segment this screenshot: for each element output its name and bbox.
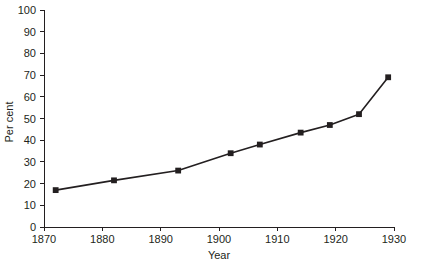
data-point-marker: [53, 187, 59, 193]
y-tick-label: 50: [24, 113, 36, 125]
x-tick-label: 1920: [323, 233, 347, 245]
data-point-marker: [298, 130, 304, 136]
data-point-marker: [111, 177, 117, 183]
line-chart: 0102030405060708090100 18701880189019001…: [0, 0, 430, 263]
data-series-line: [56, 77, 389, 190]
x-tick-label: 1890: [148, 233, 172, 245]
y-tick-label: 60: [24, 91, 36, 103]
data-point-marker: [175, 168, 181, 174]
y-tick-label: 90: [24, 26, 36, 38]
data-point-marker: [385, 74, 391, 80]
x-tick-label: 1880: [90, 233, 114, 245]
y-tick-label: 20: [24, 178, 36, 190]
x-tick-label: 1910: [265, 233, 289, 245]
x-axis-tick-marks: [44, 227, 394, 231]
data-series-markers: [53, 74, 391, 193]
y-axis-title: Per cent: [3, 102, 15, 143]
data-point-marker: [356, 111, 362, 117]
y-tick-label: 100: [18, 4, 36, 16]
chart-plot-area: 0102030405060708090100 18701880189019001…: [0, 0, 430, 263]
x-axis-tick-labels: 1870188018901900191019201930: [32, 233, 406, 245]
x-tick-label: 1870: [32, 233, 56, 245]
x-tick-label: 1930: [382, 233, 406, 245]
y-tick-label: 10: [24, 199, 36, 211]
data-point-marker: [257, 142, 263, 148]
y-tick-label: 30: [24, 156, 36, 168]
data-point-marker: [327, 122, 333, 128]
y-tick-label: 70: [24, 69, 36, 81]
y-tick-label: 0: [30, 221, 36, 233]
x-tick-label: 1900: [207, 233, 231, 245]
y-tick-label: 80: [24, 47, 36, 59]
data-point-marker: [228, 150, 234, 156]
y-axis-tick-labels: 0102030405060708090100: [18, 4, 36, 233]
y-tick-label: 40: [24, 134, 36, 146]
y-axis-tick-marks: [40, 10, 44, 227]
x-axis-title: Year: [208, 249, 231, 261]
